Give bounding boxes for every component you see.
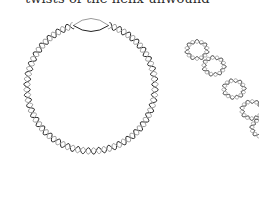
dna-diagram [0, 0, 259, 207]
relaxed-circular-dna [24, 18, 158, 154]
supercoiled-dna [185, 40, 259, 139]
